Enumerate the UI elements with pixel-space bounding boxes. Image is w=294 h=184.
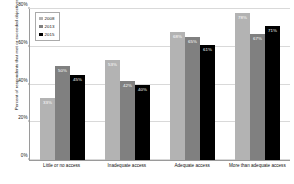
legend-swatch-icon <box>39 25 43 29</box>
bar: 50% <box>55 66 70 160</box>
legend-item: 2008 <box>39 16 54 21</box>
y-tick-label: 80% <box>18 2 27 7</box>
bar: 71% <box>265 26 280 160</box>
bar: 42% <box>120 81 135 160</box>
bar-value-label: 67% <box>250 36 265 41</box>
bar-value-label: 53% <box>105 62 120 67</box>
y-axis-title: Percent of respondents that met or excee… <box>14 0 19 125</box>
bar-value-label: 68% <box>170 34 185 39</box>
legend-swatch-icon <box>39 17 43 21</box>
bar-value-label: 65% <box>185 39 200 44</box>
y-tick-label: 60% <box>18 39 27 44</box>
bar-group: 78%67%71% <box>225 9 290 160</box>
legend-item: 2015 <box>39 32 54 37</box>
y-tick-label: 20% <box>18 115 27 120</box>
bar: 78% <box>235 13 250 160</box>
legend-item-label: 2008 <box>45 16 55 21</box>
bar-value-label: 61% <box>200 47 215 52</box>
y-tick-label: 40% <box>18 77 27 82</box>
y-tick-label: 0% <box>21 153 28 158</box>
bar-value-label: 45% <box>70 77 85 82</box>
bar: 65% <box>185 37 200 160</box>
x-tick-label: Adequate access <box>160 163 225 169</box>
bar: 40% <box>135 85 150 161</box>
bar-value-label: 40% <box>135 87 150 92</box>
bar-value-label: 71% <box>265 28 280 33</box>
bar-chart: Percent of respondents that met or excee… <box>0 0 294 184</box>
bar-value-label: 33% <box>40 100 55 105</box>
x-tick-label: Inadequate access <box>94 163 159 169</box>
bar: 53% <box>105 60 120 160</box>
bar-value-label: 50% <box>55 68 70 73</box>
bar-value-label: 42% <box>120 83 135 88</box>
bar: 67% <box>250 34 265 160</box>
bar: 33% <box>40 98 55 160</box>
legend-swatch-icon <box>39 33 43 37</box>
legend-item-label: 2015 <box>45 32 55 37</box>
x-tick-label: Little or no access <box>29 163 94 169</box>
bar-groups: 33%50%45%53%42%40%68%65%61%78%67%71% <box>30 9 290 160</box>
x-axis-labels: Little or no accessInadequate accessAdeq… <box>29 163 290 169</box>
bar-group: 68%65%61% <box>160 9 225 160</box>
legend-item: 2013 <box>39 24 54 29</box>
bar-value-label: 78% <box>235 15 250 20</box>
legend-item-label: 2013 <box>45 24 55 29</box>
plot-area: 0%20%40%60%80% 33%50%45%53%42%40%68%65%6… <box>29 9 290 161</box>
bar-group: 53%42%40% <box>95 9 160 160</box>
bar: 68% <box>170 32 185 160</box>
chart-legend: 2008 2013 2015 <box>35 12 60 41</box>
bar: 45% <box>70 75 85 160</box>
x-tick-label: More than adequate access <box>225 163 290 169</box>
bar: 61% <box>200 45 215 160</box>
